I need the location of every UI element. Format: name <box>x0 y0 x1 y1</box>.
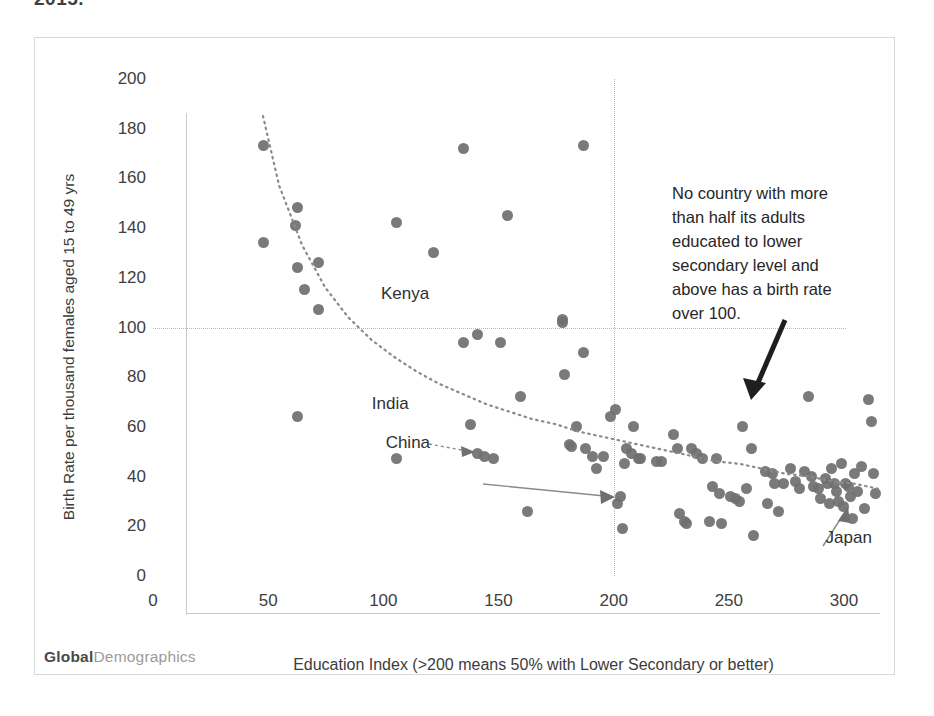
data-point <box>290 220 301 231</box>
data-point <box>734 496 745 507</box>
annotation-line: over 100. <box>672 302 884 326</box>
series-label-kenya: Kenya <box>381 284 429 304</box>
watermark-light: Demographics <box>93 648 195 665</box>
data-point <box>852 486 863 497</box>
data-point <box>831 486 842 497</box>
annotation-line: educated to lower <box>672 230 884 254</box>
data-point <box>681 518 692 529</box>
data-point <box>762 498 773 509</box>
data-point <box>656 456 667 467</box>
data-point <box>566 441 577 452</box>
annotation-line: than half its adults <box>672 206 884 230</box>
y-axis-tick-60: 60 <box>100 418 146 435</box>
data-point <box>522 506 533 517</box>
data-point <box>619 458 630 469</box>
data-point <box>859 503 870 514</box>
data-point <box>313 304 324 315</box>
data-point <box>856 461 867 472</box>
data-point <box>737 421 748 432</box>
data-point <box>714 488 725 499</box>
data-point <box>488 453 499 464</box>
data-point <box>495 337 506 348</box>
x-axis-tick-0: 0 <box>128 592 178 609</box>
y-axis-tick-20: 20 <box>100 517 146 534</box>
data-point <box>870 488 881 499</box>
data-point <box>299 284 310 295</box>
y-axis-tick-80: 80 <box>100 368 146 385</box>
data-point <box>628 421 639 432</box>
data-point <box>866 416 877 427</box>
data-point <box>803 391 814 402</box>
data-point <box>716 518 727 529</box>
series-label-japan: Japan <box>826 528 872 548</box>
x-axis-title: Education Index (>200 means 50% with Low… <box>187 656 880 674</box>
data-point <box>515 391 526 402</box>
y-axis-title: Birth Rate per thousand females aged 15 … <box>60 137 78 557</box>
data-point <box>697 453 708 464</box>
data-point <box>704 516 715 527</box>
data-point <box>258 237 269 248</box>
data-point <box>559 369 570 380</box>
data-point <box>838 501 849 512</box>
data-point <box>615 491 626 502</box>
data-point <box>458 337 469 348</box>
data-point <box>746 443 757 454</box>
data-point <box>610 404 621 415</box>
annotation-line: No country with more <box>672 182 884 206</box>
data-point <box>292 411 303 422</box>
data-point <box>741 483 752 494</box>
data-point <box>502 210 513 221</box>
data-point <box>598 451 609 462</box>
data-point <box>428 247 439 258</box>
chart-frame: Birth Rate per thousand females aged 15 … <box>34 37 895 675</box>
data-point <box>557 317 568 328</box>
data-point <box>778 478 789 489</box>
data-point <box>785 463 796 474</box>
y-axis-tick-0: 0 <box>100 567 146 584</box>
data-point <box>587 451 598 462</box>
data-point <box>794 483 805 494</box>
annotation-line: secondary level and <box>672 254 884 278</box>
data-point <box>391 217 402 228</box>
data-point <box>258 140 269 151</box>
y-axis-tick-160: 160 <box>100 169 146 186</box>
watermark-bold: Global <box>44 648 93 665</box>
data-point <box>465 419 476 430</box>
data-point <box>391 453 402 464</box>
annotation-callout: No country with morethan half its adults… <box>672 182 884 326</box>
data-point <box>863 394 874 405</box>
data-point <box>668 429 679 440</box>
series-label-china: China <box>386 433 430 453</box>
data-point <box>292 202 303 213</box>
y-axis-tick-180: 180 <box>100 120 146 137</box>
data-point <box>591 463 602 474</box>
series-label-india: India <box>372 394 409 414</box>
data-point <box>617 523 628 534</box>
y-axis-tick-200: 200 <box>100 70 146 87</box>
data-point <box>868 468 879 479</box>
y-axis-tick-140: 140 <box>100 219 146 236</box>
data-point <box>836 458 847 469</box>
data-point <box>313 257 324 268</box>
data-point <box>292 262 303 273</box>
y-axis-tick-120: 120 <box>100 269 146 286</box>
data-point <box>847 513 858 524</box>
y-axis-tick-40: 40 <box>100 468 146 485</box>
data-point <box>578 140 589 151</box>
watermark: GlobalDemographics <box>44 648 196 666</box>
data-point <box>711 453 722 464</box>
x-axis-line <box>187 613 880 614</box>
data-point <box>748 530 759 541</box>
data-point <box>773 506 784 517</box>
data-point <box>578 347 589 358</box>
data-point <box>571 421 582 432</box>
data-point <box>672 443 683 454</box>
clipped-title: 2015. <box>34 0 154 6</box>
data-point <box>458 143 469 154</box>
annotation-line: above has a birth rate <box>672 278 884 302</box>
data-point <box>635 453 646 464</box>
data-point <box>472 329 483 340</box>
y-axis-tick-100: 100 <box>100 319 146 336</box>
